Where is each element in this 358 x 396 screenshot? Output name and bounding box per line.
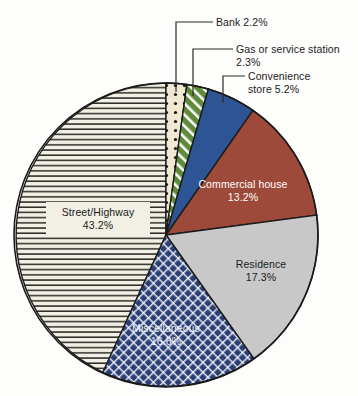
leader-line-bank xyxy=(176,22,213,92)
callout-label-bank: Bank 2.2% xyxy=(216,16,268,29)
pie-chart: Bank 2.2% Gas or service station 2.3% Co… xyxy=(0,0,358,396)
callout-label-gas-or-service-station: Gas or service station 2.3% xyxy=(236,43,358,68)
slice-label-commercial-house: Commercial house 13.2% xyxy=(193,178,293,204)
slice-label-street-highway: Street/Highway 43.2% xyxy=(46,202,150,237)
slice-label-residence: Residence 17.3% xyxy=(218,258,304,284)
callout-label-convenience-store: Convenience store 5.2% xyxy=(248,70,310,95)
slice-label-miscellaneous: Miscellaneous 16.6% xyxy=(118,322,214,348)
